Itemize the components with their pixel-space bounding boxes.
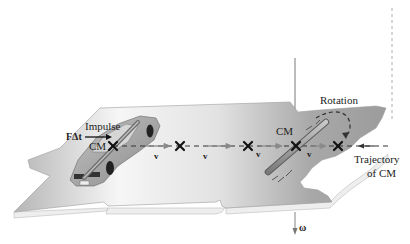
car-wheel-rear xyxy=(147,125,154,138)
angular-velocity-vector xyxy=(293,212,298,235)
car-wheel-front xyxy=(106,161,114,175)
trajectory-label-line2: of CM xyxy=(367,168,396,179)
trajectory-label-line1: Trajectory xyxy=(354,154,399,165)
diagram-canvas xyxy=(0,0,410,244)
cm-car-label: CM xyxy=(89,141,106,152)
impulse-label: Impulse xyxy=(85,121,120,132)
velocity-label-3: v xyxy=(256,150,261,159)
velocity-label-4: v xyxy=(307,150,312,159)
rotation-label: Rotation xyxy=(320,95,358,106)
cm-rod-label: CM xyxy=(276,126,293,137)
force-time-label: FΔt xyxy=(66,132,82,142)
velocity-label-2: v xyxy=(203,152,208,161)
velocity-label-1: v xyxy=(154,152,159,161)
impulse-rotation-diagram: Impulse FΔt CM v v v v CM Rotation Traje… xyxy=(0,0,410,244)
trajectory-arrow xyxy=(358,144,374,149)
ground-surface xyxy=(14,102,386,212)
omega-label: ω xyxy=(299,223,306,233)
